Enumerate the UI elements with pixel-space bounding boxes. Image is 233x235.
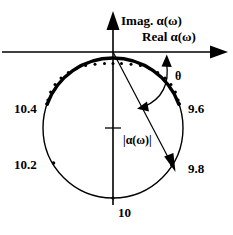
figure-background [0, 0, 233, 235]
tick-label-10-2: 10.2 [14, 158, 37, 171]
tick-9-6 [177, 102, 181, 106]
tick-label-10-4: 10.4 [14, 102, 37, 115]
tick-label-10: 10 [118, 206, 131, 219]
polar-locus-figure [0, 0, 233, 235]
magnitude-label: |α(ω)| [123, 134, 152, 146]
tick-label-9-6: 9.6 [188, 102, 204, 115]
tick-10-2 [52, 161, 56, 165]
theta-angle-label: θ [175, 70, 181, 82]
tick-label-9-8: 9.8 [188, 162, 204, 175]
tick-10 [111, 196, 114, 199]
tick-10-4 [45, 102, 49, 106]
real-axis-label: Real α(ω) [142, 30, 196, 43]
imag-axis-label: Imag. α(ω) [121, 14, 182, 27]
